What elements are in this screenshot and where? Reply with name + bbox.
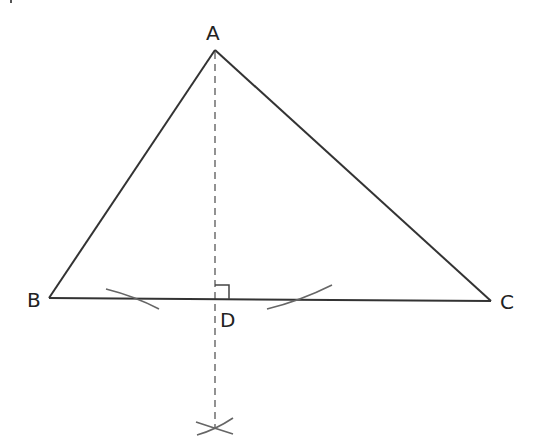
label-a: A bbox=[206, 21, 220, 45]
side-ac bbox=[215, 50, 491, 301]
side-bc bbox=[49, 298, 491, 301]
label-c: C bbox=[500, 290, 514, 314]
construction-arc-right bbox=[267, 285, 332, 309]
triangle-perpendicular-diagram: A B C D bbox=[0, 0, 538, 447]
side-ab bbox=[49, 50, 215, 298]
cropped-fragment bbox=[10, 0, 12, 3]
label-d: D bbox=[220, 308, 235, 332]
label-b: B bbox=[27, 288, 41, 312]
right-angle-marker bbox=[215, 285, 229, 299]
